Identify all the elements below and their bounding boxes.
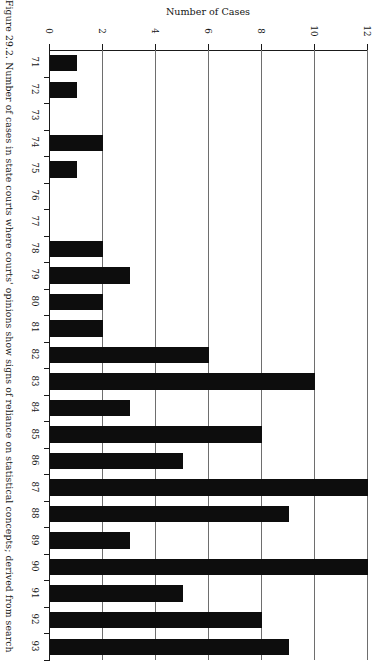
bar-88 — [50, 506, 289, 522]
y-tick-mark-83 — [44, 395, 49, 396]
bar-87 — [50, 479, 368, 495]
y-tick-mark-91 — [44, 607, 49, 608]
bar-75 — [50, 161, 77, 177]
y-tick-label-90: 90 — [30, 557, 40, 575]
axis-title: Number of Cases — [49, 6, 367, 17]
y-tick-label-88: 88 — [30, 504, 40, 522]
x-tick-label-10: 10 — [309, 23, 319, 39]
y-tick-label-77: 77 — [30, 212, 40, 230]
bar-90 — [50, 559, 368, 575]
bar-78 — [50, 241, 103, 257]
y-tick-label-93: 93 — [30, 637, 40, 655]
bar-81 — [50, 320, 103, 336]
y-tick-label-85: 85 — [30, 425, 40, 443]
x-tick-label-0: 0 — [44, 23, 54, 39]
y-tick-label-72: 72 — [30, 80, 40, 98]
y-tick-label-80: 80 — [30, 292, 40, 310]
y-tick-label-76: 76 — [30, 186, 40, 204]
bar-82 — [50, 347, 209, 363]
y-tick-label-81: 81 — [30, 318, 40, 336]
bar-79 — [50, 267, 130, 283]
y-tick-mark-77 — [44, 236, 49, 237]
y-tick-label-87: 87 — [30, 478, 40, 496]
y-tick-label-84: 84 — [30, 398, 40, 416]
y-tick-mark-76 — [44, 209, 49, 210]
x-tick-label-6: 6 — [203, 23, 213, 39]
y-tick-mark-93 — [44, 660, 49, 661]
y-tick-mark-71 — [44, 77, 49, 78]
y-tick-mark-78 — [44, 262, 49, 263]
y-tick-label-75: 75 — [30, 159, 40, 177]
bar-91 — [50, 585, 183, 601]
x-tick-label-4: 4 — [150, 23, 160, 39]
bar-74 — [50, 135, 103, 151]
y-tick-mark-88 — [44, 527, 49, 528]
y-tick-mark-90 — [44, 580, 49, 581]
bar-92 — [50, 612, 262, 628]
bar-71 — [50, 55, 77, 71]
plot-area: 7172737475767778798081828384858687888990… — [49, 50, 367, 660]
bar-85 — [50, 426, 262, 442]
y-tick-label-83: 83 — [30, 372, 40, 390]
x-tick-label-2: 2 — [97, 23, 107, 39]
y-tick-label-79: 79 — [30, 265, 40, 283]
y-tick-mark-82 — [44, 368, 49, 369]
y-tick-label-74: 74 — [30, 133, 40, 151]
x-tick-label-12: 12 — [362, 23, 372, 39]
x-tick-label-8: 8 — [256, 23, 266, 39]
y-tick-label-73: 73 — [30, 106, 40, 124]
bar-89 — [50, 532, 130, 548]
y-tick-mark-86 — [44, 474, 49, 475]
y-tick-mark-84 — [44, 421, 49, 422]
bar-80 — [50, 294, 103, 310]
y-tick-label-82: 82 — [30, 345, 40, 363]
bar-84 — [50, 400, 130, 416]
y-tick-label-86: 86 — [30, 451, 40, 469]
y-tick-mark-81 — [44, 342, 49, 343]
y-tick-mark-80 — [44, 315, 49, 316]
figure-caption-container: Figure 29.2. Number of cases in state co… — [0, 0, 22, 665]
y-tick-label-91: 91 — [30, 584, 40, 602]
y-tick-mark-87 — [44, 501, 49, 502]
y-tick-mark-73 — [44, 130, 49, 131]
y-tick-mark-74 — [44, 156, 49, 157]
y-tick-mark-85 — [44, 448, 49, 449]
bar-86 — [50, 453, 183, 469]
y-tick-mark-79 — [44, 289, 49, 290]
y-tick-label-78: 78 — [30, 239, 40, 257]
y-tick-mark-89 — [44, 554, 49, 555]
y-tick-label-71: 71 — [30, 53, 40, 71]
y-tick-mark-72 — [44, 103, 49, 104]
y-tick-label-92: 92 — [30, 610, 40, 628]
y-tick-mark-92 — [44, 633, 49, 634]
bar-93 — [50, 639, 289, 655]
figure-caption: Figure 29.2. Number of cases in state co… — [4, 0, 14, 653]
bar-83 — [50, 373, 315, 389]
y-tick-mark-75 — [44, 183, 49, 184]
y-tick-label-89: 89 — [30, 531, 40, 549]
bar-72 — [50, 82, 77, 98]
